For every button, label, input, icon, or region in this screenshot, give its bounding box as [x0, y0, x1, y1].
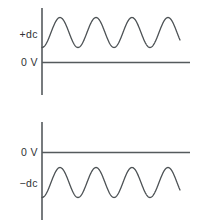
waveform-figure: +dc 0 V 0 V −dc — [0, 0, 201, 223]
positive-chart-zero-volt-label: 0 V — [21, 56, 38, 68]
positive-dc-chart: +dc 0 V — [20, 8, 190, 95]
positive-dc-offset-label: +dc — [20, 28, 38, 40]
negative-dc-chart: 0 V −dc — [20, 122, 190, 220]
waveform-svg-canvas: +dc 0 V 0 V −dc — [0, 0, 201, 223]
negative-dc-sine-waveform — [42, 168, 180, 198]
positive-dc-sine-waveform — [42, 18, 180, 48]
negative-chart-zero-volt-label: 0 V — [21, 146, 38, 158]
negative-dc-offset-label: −dc — [20, 177, 38, 189]
